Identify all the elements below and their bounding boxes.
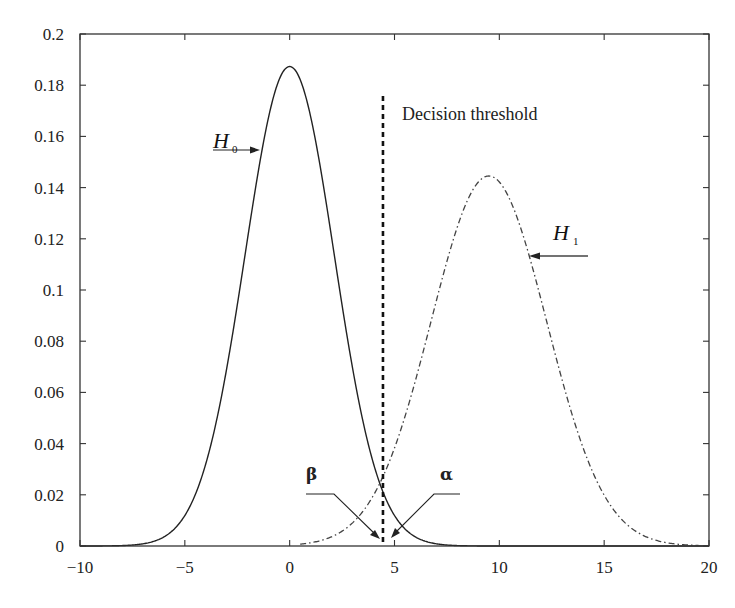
y-tick-label: 0.06	[34, 383, 64, 402]
y-tick-label: 0.08	[34, 332, 64, 351]
curves	[80, 67, 709, 546]
x-axis-ticks: −10−505101520	[67, 34, 718, 577]
h0-label-subscript: 0	[232, 143, 238, 155]
x-tick-label: −10	[67, 558, 94, 577]
h0-label: H	[212, 128, 230, 153]
y-tick-label: 0.2	[43, 25, 64, 44]
h0-arrow-head-icon	[250, 147, 260, 154]
plot-frame	[80, 34, 709, 546]
x-tick-label: 0	[285, 558, 294, 577]
h1-annotation: H 1	[529, 220, 588, 260]
x-tick-label: 10	[491, 558, 508, 577]
y-tick-label: 0.04	[34, 435, 64, 454]
y-tick-label: 0	[56, 537, 65, 556]
h1-label: H	[552, 220, 570, 245]
h1-label-subscript: 1	[573, 235, 579, 247]
x-tick-label: 20	[701, 558, 718, 577]
x-tick-label: 5	[390, 558, 399, 577]
y-tick-label: 0.14	[34, 179, 64, 198]
threshold-label: Decision threshold	[402, 104, 537, 124]
alpha-annotation: α	[391, 464, 460, 538]
h1-arrow-head-icon	[529, 253, 540, 260]
chart-canvas: −10−505101520 00.020.040.060.080.10.120.…	[0, 0, 735, 608]
y-tick-label: 0.16	[34, 127, 64, 146]
beta-label: β	[306, 464, 317, 484]
y-tick-label: 0.12	[34, 230, 64, 249]
beta-leader-line	[306, 494, 376, 535]
x-tick-label: −5	[176, 558, 194, 577]
x-tick-label: 15	[596, 558, 613, 577]
y-tick-label: 0.1	[43, 281, 64, 300]
beta-annotation: β	[306, 464, 380, 539]
y-tick-label: 0.18	[34, 76, 64, 95]
y-axis-ticks: 00.020.040.060.080.10.120.140.160.180.2	[34, 25, 709, 556]
alpha-leader-line	[395, 494, 460, 533]
y-tick-label: 0.02	[34, 486, 64, 505]
alpha-label: α	[440, 464, 453, 484]
h1-distribution-curve	[300, 176, 698, 546]
h0-annotation: H 0	[212, 128, 260, 155]
plot-border	[80, 34, 709, 546]
h0-distribution-curve	[80, 67, 709, 546]
